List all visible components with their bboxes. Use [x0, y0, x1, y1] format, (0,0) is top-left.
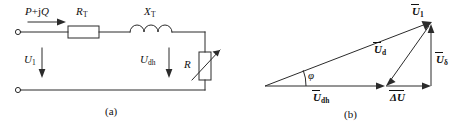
panel-a-circuit: P+jQ RT XT U1 Udh R (a) — [0, 0, 240, 129]
variable-resistor-label: R — [184, 59, 191, 70]
series-inductor-icon — [130, 25, 172, 32]
udh-sub: dh — [321, 96, 329, 105]
phi-angle-label: φ — [308, 70, 314, 81]
panel-b-phasor: U1 Ud Uδ Udh ΔU φ (b) — [240, 0, 462, 129]
series-resistor-label: RT — [76, 6, 87, 18]
ud-label: Ud — [374, 44, 386, 56]
load-voltage-sub: dh — [148, 58, 155, 67]
circuit-schematic — [0, 0, 240, 129]
u1-sub: 1 — [420, 10, 424, 19]
phi-angle-arc — [303, 70, 306, 86]
delta-u-vector-head — [422, 83, 431, 90]
input-terminal-top-icon — [15, 29, 20, 34]
panel-b-caption: (b) — [344, 108, 357, 120]
load-voltage-arrow-head — [166, 69, 173, 78]
series-resistor-sub: T — [83, 10, 88, 19]
ud-vector-line — [390, 26, 429, 81]
variable-resistor-arrow-head — [213, 50, 221, 57]
source-voltage-label: U1 — [24, 54, 36, 66]
source-voltage-sub: 1 — [32, 58, 36, 67]
input-terminal-bottom-icon — [15, 87, 20, 92]
udh-label: Udh — [313, 92, 329, 104]
figure-container: P+jQ RT XT U1 Udh R (a) — [0, 0, 462, 129]
series-reactance-label: XT — [144, 6, 155, 18]
udelta-sub: δ — [444, 58, 448, 67]
power-flow-arrow-head — [57, 19, 66, 26]
udelta-label: Uδ — [436, 54, 448, 66]
u1-vector-line — [265, 24, 426, 86]
source-voltage-arrow-head — [39, 69, 46, 78]
power-flow-label: P+jQ — [25, 6, 49, 17]
series-resistor-icon — [68, 26, 99, 38]
udh-vector-head — [376, 83, 385, 90]
delta-u-label: ΔU — [390, 92, 405, 103]
series-reactance-sub: T — [151, 10, 156, 19]
panel-a-caption: (a) — [105, 105, 117, 117]
load-voltage-label: Udh — [140, 54, 156, 66]
ud-vector-head — [386, 78, 396, 86]
power-plus-j: +j — [32, 5, 41, 17]
u1-label: U1 — [412, 6, 424, 18]
ud-sub: d — [382, 48, 386, 57]
